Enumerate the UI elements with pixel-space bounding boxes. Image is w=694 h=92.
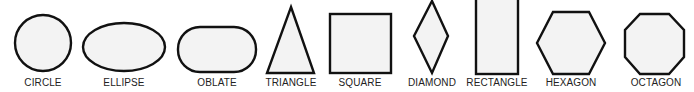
shapes-diagram: CIRCLE ELLIPSE OBLATE TRIANGLE SQUARE DI… [0,0,694,92]
circle-shape [15,15,71,71]
square-label: SQUARE [339,77,382,89]
square-shape [330,14,391,73]
oblate-label: OBLATE [197,77,236,89]
circle-label: CIRCLE [24,77,61,89]
hexagon-shape [537,12,605,74]
rectangle-label: RECTANGLE [466,77,527,89]
ellipse-label: ELLIPSE [103,77,144,89]
octagon-label: OCTAGON [631,77,682,89]
ellipse-shape [83,23,165,71]
rectangle-shape [476,0,518,74]
triangle-label: TRIANGLE [266,77,317,89]
triangle-shape [267,7,314,73]
oblate-shape [178,27,256,72]
hexagon-label: HEXAGON [546,77,597,89]
diamond-label: DIAMOND [408,77,456,89]
diamond-shape [414,1,448,73]
octagon-shape [625,14,684,74]
